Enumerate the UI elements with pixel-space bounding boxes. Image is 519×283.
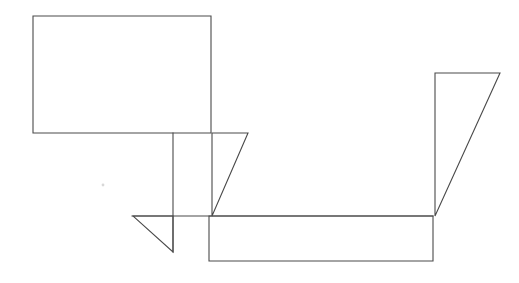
speck-mark: [102, 184, 105, 187]
canvas-background: [0, 0, 519, 283]
line-drawing-figure: [0, 0, 519, 283]
drawing-canvas: [0, 0, 519, 283]
